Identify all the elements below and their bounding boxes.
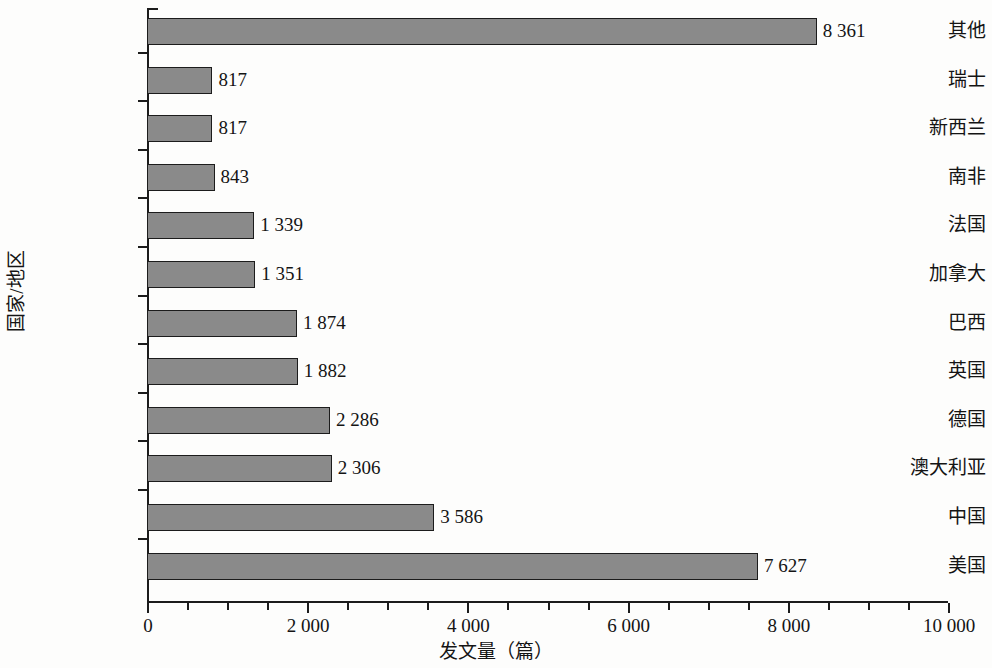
bar-value-label: 3 586	[440, 503, 483, 531]
x-axis-minor-tick	[748, 603, 750, 610]
y-axis-tick	[138, 440, 147, 442]
x-axis-minor-tick	[427, 603, 429, 610]
x-axis-tick-label: 8 000	[767, 613, 810, 639]
x-axis-major-tick	[788, 603, 790, 613]
x-axis-minor-tick	[868, 603, 870, 610]
bar-row: 843	[147, 154, 948, 202]
x-axis-minor-tick	[267, 603, 269, 610]
bar	[147, 67, 212, 94]
x-axis-minor-tick	[548, 603, 550, 610]
bar	[147, 553, 758, 580]
bar	[147, 310, 297, 337]
x-axis-minor-tick	[708, 603, 710, 610]
y-axis-tick	[138, 246, 147, 248]
y-axis-tick	[138, 52, 147, 54]
bar-value-label: 1 874	[303, 309, 346, 337]
category-label: 南非	[854, 163, 992, 191]
category-label: 瑞士	[854, 66, 992, 94]
bar-row: 1 351	[147, 251, 948, 299]
bar	[147, 212, 254, 239]
x-axis-major-tick	[628, 603, 630, 613]
x-axis-major-tick	[948, 603, 950, 613]
x-axis-title: 发文量（篇）	[0, 639, 992, 665]
bar	[147, 261, 255, 288]
bar-value-label: 7 627	[764, 552, 807, 580]
bar-value-label: 817	[218, 114, 247, 142]
bar	[147, 407, 330, 434]
plot-area: 8 3618178178431 3391 3511 8741 8822 2862…	[147, 8, 948, 601]
bar-row: 2 286	[147, 397, 948, 445]
bar-value-label: 1 339	[260, 211, 303, 239]
x-axis-tick-label: 2 000	[287, 613, 330, 639]
bar	[147, 504, 434, 531]
bar-row: 1 339	[147, 202, 948, 250]
y-axis-tick	[138, 197, 147, 199]
y-axis-tick	[138, 489, 147, 491]
bar-value-label: 843	[221, 163, 250, 191]
bar	[147, 164, 215, 191]
y-axis-tick	[138, 343, 147, 345]
bar	[147, 18, 817, 45]
category-label: 澳大利亚	[854, 454, 992, 482]
x-axis-major-tick	[307, 603, 309, 613]
category-label: 中国	[854, 503, 992, 531]
category-label: 美国	[854, 552, 992, 580]
y-axis-tick	[138, 538, 147, 540]
y-axis-tick	[138, 149, 147, 151]
x-axis-minor-tick	[828, 603, 830, 610]
bar-value-label: 1 351	[261, 260, 304, 288]
bar-row: 1 882	[147, 348, 948, 396]
category-label: 英国	[854, 357, 992, 385]
x-axis-minor-tick	[227, 603, 229, 610]
bar-row: 3 586	[147, 494, 948, 542]
bar-chart: 国家/地区 8 3618178178431 3391 3511 8741 882…	[0, 0, 992, 668]
y-axis-title: 国家/地区	[6, 241, 28, 341]
x-axis-minor-tick	[668, 603, 670, 610]
y-axis-tick	[138, 100, 147, 102]
y-axis-tick	[138, 392, 147, 394]
x-axis-tick-label: 6 000	[607, 613, 650, 639]
bar	[147, 358, 298, 385]
bar-value-label: 817	[218, 66, 247, 94]
x-axis-minor-tick	[387, 603, 389, 610]
x-axis-minor-tick	[588, 603, 590, 610]
x-axis-minor-tick	[908, 603, 910, 610]
x-axis-minor-tick	[507, 603, 509, 610]
bar-row: 817	[147, 105, 948, 153]
bar-row: 7 627	[147, 543, 948, 591]
bar-value-label: 2 286	[336, 406, 379, 434]
bar	[147, 115, 212, 142]
bar	[147, 455, 332, 482]
y-axis-tick	[138, 295, 147, 297]
category-label: 其他	[854, 17, 992, 45]
bar-row: 8 361	[147, 8, 948, 56]
category-label: 巴西	[854, 309, 992, 337]
x-axis-major-tick	[467, 603, 469, 613]
x-axis-major-tick	[147, 603, 149, 613]
x-axis-tick-label: 10 000	[923, 613, 975, 639]
category-label: 法国	[854, 211, 992, 239]
category-label: 德国	[854, 406, 992, 434]
bar-value-label: 2 306	[338, 454, 381, 482]
bar-value-label: 1 882	[304, 357, 347, 385]
bar-row: 2 306	[147, 445, 948, 493]
x-axis-tick-label: 0	[143, 613, 153, 639]
category-label: 加拿大	[854, 260, 992, 288]
bar-row: 817	[147, 57, 948, 105]
x-axis-minor-tick	[187, 603, 189, 610]
x-axis-tick-label: 4 000	[447, 613, 490, 639]
category-label: 新西兰	[854, 114, 992, 142]
x-axis-minor-tick	[347, 603, 349, 610]
bar-row: 1 874	[147, 300, 948, 348]
